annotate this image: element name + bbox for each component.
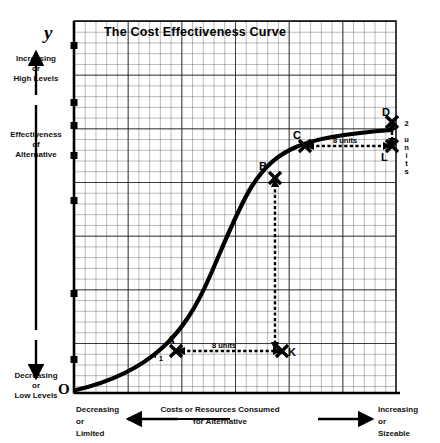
plot-svg: The Cost Effectiveness Curve A B C D K L… [0,0,440,443]
y-tick-high [71,42,78,49]
chart-canvas: Increasing or High Levels Effectiveness … [0,0,440,443]
y-tick-4 [71,152,78,159]
y-tick-6 [71,290,78,297]
y-tick-5 [71,197,78,204]
point-label-D: D [382,106,390,118]
point-label-C: C [293,129,301,141]
point-label-K: K [288,346,296,358]
point-label-A: A [167,334,175,346]
point-label-B: B [259,160,267,172]
point-sublabel-A: I [154,350,157,360]
point-label-L: L [381,151,388,163]
annotation-cl-label: 8 units [333,136,357,145]
chart-title: The Cost Effectiveness Curve [104,25,286,39]
point-sublabel-A-sub: 1 [159,355,163,362]
y-tick-3 [71,122,78,129]
grid [74,21,396,393]
y-tick-low [71,356,78,363]
y-tick-2 [71,99,78,106]
annotation-ak-label: 8 units [212,341,236,350]
